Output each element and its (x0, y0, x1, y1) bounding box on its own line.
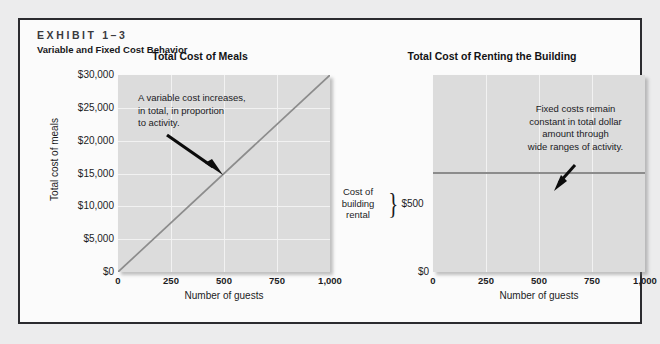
x-axis-label-meals: Number of guests (118, 290, 330, 301)
x-axis-tick: 0 (115, 276, 120, 286)
exhibit-frame: EXHIBIT 1–3 Variable and Fixed Cost Beha… (18, 18, 642, 324)
chart-title-renting: Total Cost of Renting the Building (342, 50, 642, 62)
arrow-icon-fixed (553, 163, 587, 193)
chart-panel-total-cost-of-renting: Total Cost of Renting the Building Cost … (342, 50, 642, 320)
x-axis-label-renting: Number of guests (433, 290, 645, 301)
x-axis-ticks-meals: 02505007501,000 (118, 276, 330, 288)
x-axis-ticks-renting: 02505007501,000 (433, 276, 645, 288)
y-axis-tick: $30,000 (78, 70, 114, 80)
annotation-fixed-cost: Fixed costs remain constant in total dol… (508, 103, 643, 153)
x-axis-tick: 500 (531, 276, 547, 286)
arrow-icon-variable (165, 133, 227, 179)
y-axis-tick-zero-renting: $0 (397, 266, 429, 277)
exhibit-number: EXHIBIT 1–3 (37, 28, 457, 42)
y-axis-ticks-meals: $30,000$25,000$20,000$15,000$10,000$5,00… (30, 75, 114, 272)
annotation-variable-cost: A variable cost increases, in total, in … (138, 92, 246, 130)
x-axis-tick: 250 (163, 276, 179, 286)
bracket-annotation-building-rental: Cost of building rental } $500 (332, 186, 424, 221)
x-axis-tick: 250 (478, 276, 494, 286)
x-axis-tick: 500 (216, 276, 232, 286)
x-axis-tick: 0 (430, 276, 435, 286)
y-axis-tick: $0 (103, 267, 114, 277)
y-axis-tick: $10,000 (78, 201, 114, 211)
y-axis-tick: $25,000 (78, 103, 114, 113)
x-axis-tick: 750 (269, 276, 285, 286)
x-axis-tick: 1,000 (318, 276, 342, 286)
y-axis-tick: $15,000 (78, 169, 114, 179)
chart-panel-total-cost-of-meals: Total Cost of Meals $30,000$25,000$20,00… (30, 50, 340, 320)
plot-area-renting: Fixed costs remain constant in total dol… (433, 75, 645, 272)
fixed-cost-data-line (433, 172, 645, 174)
y-axis-tick: $5,000 (83, 234, 114, 244)
chart-title-meals: Total Cost of Meals (60, 50, 340, 62)
bracket-value: $500 (401, 198, 423, 209)
y-axis-tick: $20,000 (78, 136, 114, 146)
plot-area-meals: A variable cost increases, in total, in … (118, 75, 330, 272)
bracket-label: Cost of building rental (332, 186, 384, 221)
x-axis-tick: 750 (584, 276, 600, 286)
x-axis-tick: 1,000 (633, 276, 657, 286)
y-axis-label-meals: Total cost of meals (49, 90, 60, 230)
